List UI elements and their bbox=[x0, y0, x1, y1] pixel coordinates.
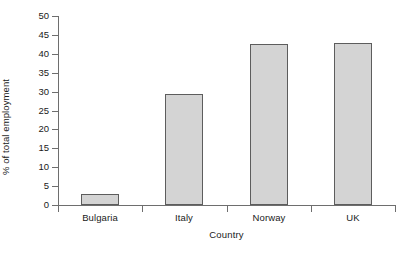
y-axis-tick-label: 40 bbox=[12, 49, 58, 59]
y-axis-tick-label: 10 bbox=[12, 162, 58, 172]
y-axis-tick-label: 45 bbox=[12, 30, 58, 40]
y-axis-tick-label: 50 bbox=[12, 11, 58, 21]
x-axis-category-label: UK bbox=[311, 212, 395, 223]
y-axis-title-text: % of total employment bbox=[0, 79, 11, 175]
y-axis-tick-label: 0 bbox=[12, 200, 58, 210]
x-axis-tick bbox=[395, 206, 396, 212]
bar-bulgaria bbox=[81, 194, 119, 205]
x-axis-category-label: Bulgaria bbox=[58, 212, 142, 223]
y-axis-tick-label: 5 bbox=[12, 181, 58, 191]
bar-norway bbox=[250, 44, 288, 205]
y-axis-tick-label: 15 bbox=[12, 143, 58, 153]
x-axis-category-label: Norway bbox=[227, 212, 311, 223]
y-axis-tick-label: 20 bbox=[12, 124, 58, 134]
bar-italy bbox=[165, 94, 203, 205]
bar-uk bbox=[334, 43, 372, 205]
y-axis-line bbox=[58, 16, 59, 206]
y-axis-tick-label: 25 bbox=[12, 106, 58, 116]
x-axis-title: Country bbox=[58, 229, 395, 240]
y-axis-tick-label: 30 bbox=[12, 87, 58, 97]
x-axis-category-label: Italy bbox=[142, 212, 226, 223]
bar-chart-figure: % of total employment 051015202530354045… bbox=[0, 0, 406, 254]
y-axis-tick-label: 35 bbox=[12, 68, 58, 78]
